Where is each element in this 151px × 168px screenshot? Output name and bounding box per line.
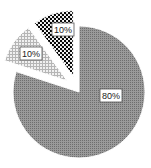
slice-label-2: 10% <box>20 47 42 60</box>
pie-chart: 80%10%10% <box>0 0 151 168</box>
slice-label-1: 80% <box>100 89 122 102</box>
svg-text:10%: 10% <box>54 25 72 35</box>
svg-text:10%: 10% <box>22 49 40 59</box>
slice-label-3: 10% <box>52 23 74 36</box>
svg-text:80%: 80% <box>102 91 120 101</box>
